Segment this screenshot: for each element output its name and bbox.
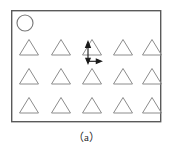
figure-caption: （a） (0, 130, 173, 144)
figure-container: （a） (0, 0, 173, 154)
